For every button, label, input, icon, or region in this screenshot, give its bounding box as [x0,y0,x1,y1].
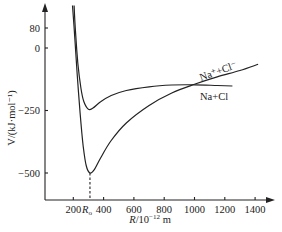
y-tick-label: −500 [18,168,40,179]
x-axis-label-exp: −12 [149,213,160,221]
x-axis-label-rest: /10 [136,214,149,225]
x-axis-label: R/10−12 m [128,213,171,225]
y-axis-label: V/(kJ·mol⁻¹) [6,90,18,146]
series-label-neutral: Na+Cl [200,91,228,102]
x-tick-label: 400 [96,204,112,215]
x-tick-label-ro: Ro [81,204,92,217]
curves [73,6,259,174]
x-tick-label: 1000 [184,204,205,215]
curve-na-plus-cl-minus [73,6,259,174]
y-tick-label: 0 [35,43,40,54]
y-axis-arrow-icon [42,3,48,12]
x-tick-label: 1200 [214,204,235,215]
axes [42,3,275,203]
y-tick-label: −250 [18,105,40,116]
x-axis-label-unit: m [160,214,171,225]
ticks: 800−250−500200Ro400600800100012001400 [18,23,265,218]
x-axis-arrow-icon [266,197,275,203]
series-label-ionic: Na⁺+Cl⁻ [198,59,239,83]
potential-energy-chart: 800−250−500200Ro400600800100012001400 V/… [0,0,282,232]
y-tick-label: 80 [30,23,41,34]
x-tick-label: 200 [65,204,81,215]
x-tick-label: 1400 [245,204,266,215]
